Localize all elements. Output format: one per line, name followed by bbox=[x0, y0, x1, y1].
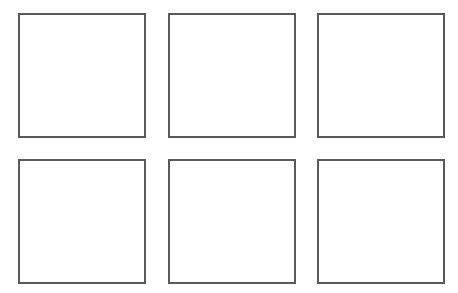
box-row1-col2 bbox=[168, 13, 296, 138]
box-row2-col3 bbox=[317, 159, 445, 284]
box-row1-col1 bbox=[18, 13, 146, 138]
box-row2-col1 bbox=[18, 159, 146, 284]
box-row2-col2 bbox=[168, 159, 296, 284]
box-row1-col3 bbox=[317, 13, 445, 138]
